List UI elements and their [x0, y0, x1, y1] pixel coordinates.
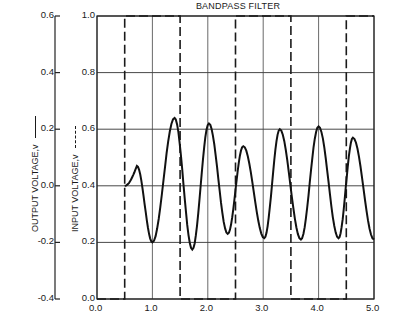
output-axis-label-text: OUTPUT VOLTAGE,v	[30, 144, 40, 232]
output-voltage-series	[125, 118, 374, 250]
x-tick-label: 3.0	[255, 302, 268, 313]
x-tick-label: 0.0	[89, 302, 102, 313]
output-voltage-axis-label: OUTPUT VOLTAGE,v	[30, 116, 40, 232]
dashed-line-legend	[75, 126, 76, 148]
x-tick-label: 1.0	[144, 302, 157, 313]
output-y-tick-label: 0.0	[41, 179, 54, 190]
output-y-tick-label: 0.6	[41, 9, 54, 20]
x-tick-label: 2.0	[200, 302, 213, 313]
chart-title: BANDPASS FILTER	[0, 1, 396, 11]
input-y-tick-label: 0.2	[82, 235, 95, 246]
input-axis-label-text: INPUT VOLTAGE,v	[70, 154, 80, 232]
input-voltage-series	[97, 16, 374, 299]
input-y-tick-label: 1.0	[82, 9, 95, 20]
output-y-tick-label: 0.2	[41, 122, 54, 133]
input-y-tick-label: 0.6	[82, 122, 95, 133]
x-tick-label: 4.0	[311, 302, 324, 313]
chart-canvas	[0, 0, 396, 316]
input-y-tick-label: 0.4	[82, 179, 95, 190]
input-y-tick-label: 0.8	[82, 66, 95, 77]
output-y-tick-label: -0.2	[38, 235, 54, 246]
output-y-tick-label: 0.4	[41, 66, 54, 77]
x-tick-label: 5.0	[366, 302, 379, 313]
output-y-tick-label: -0.4	[38, 292, 54, 303]
input-voltage-axis-label: INPUT VOLTAGE,v	[70, 126, 80, 232]
solid-line-legend	[35, 116, 36, 138]
